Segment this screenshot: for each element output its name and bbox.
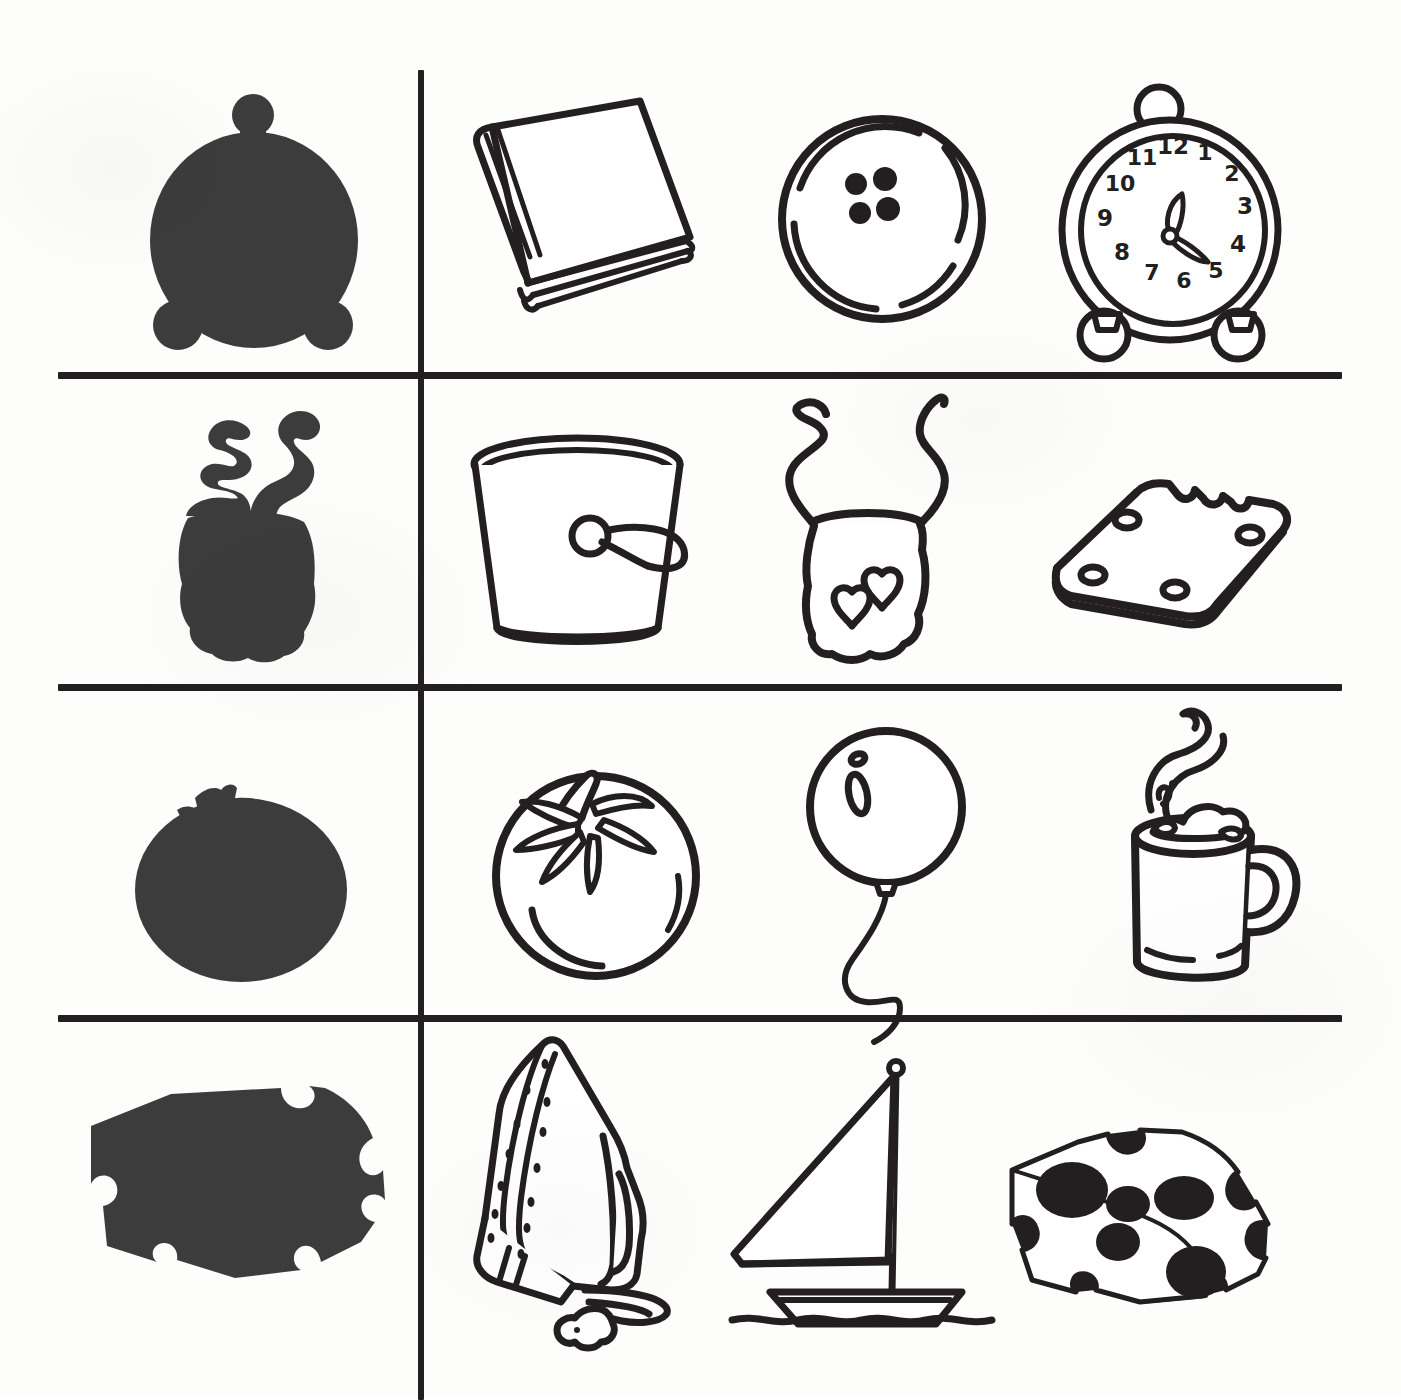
svg-text:5: 5 <box>1208 258 1223 283</box>
svg-text:2: 2 <box>1224 161 1239 186</box>
row-4-option-sailboat[interactable] <box>740 1042 990 1332</box>
horizontal-divider-2 <box>58 684 1342 691</box>
svg-text:1: 1 <box>1197 140 1212 165</box>
row-2-option-bucket[interactable] <box>462 432 717 662</box>
row-3-shadow-tomato[interactable] <box>125 748 365 983</box>
svg-text:3: 3 <box>1237 193 1253 219</box>
svg-text:8: 8 <box>1114 239 1130 265</box>
vertical-divider <box>418 70 424 1400</box>
row-3-option-balloon[interactable] <box>790 712 990 1047</box>
row-4-option-iron[interactable] <box>465 1032 710 1357</box>
row-2-option-cracker[interactable] <box>1035 472 1320 632</box>
row-2-option-bib[interactable] <box>746 382 991 667</box>
row-3-option-hot-cocoa-mug[interactable] <box>1095 700 1335 1000</box>
svg-text:11: 11 <box>1127 145 1158 170</box>
horizontal-divider-1 <box>58 372 1342 379</box>
row-1-option-book[interactable] <box>450 85 720 325</box>
row-4-shadow-cheese[interactable] <box>85 1082 405 1282</box>
row-4-option-swiss-cheese[interactable] <box>1000 1112 1310 1307</box>
svg-text:4: 4 <box>1230 231 1246 257</box>
svg-text:6: 6 <box>1176 268 1191 293</box>
row-1-option-button[interactable] <box>772 112 992 327</box>
svg-text:9: 9 <box>1097 205 1113 231</box>
row-3-option-tomato[interactable] <box>472 752 727 982</box>
row-1-shadow-alarm-clock[interactable] <box>130 80 380 350</box>
svg-text:10: 10 <box>1105 171 1136 196</box>
horizontal-divider-3 <box>58 1015 1342 1022</box>
row-1-option-alarm-clock[interactable]: 12 1 2 3 4 5 6 7 8 9 10 11 <box>1042 82 1307 357</box>
svg-text:7: 7 <box>1144 260 1159 285</box>
svg-text:12: 12 <box>1157 133 1189 159</box>
row-2-shadow-bib[interactable] <box>128 388 368 668</box>
